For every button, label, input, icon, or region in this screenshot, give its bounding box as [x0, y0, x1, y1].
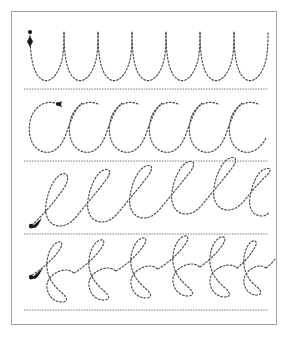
trace-stroke-f-6[interactable]: [237, 241, 266, 295]
trace-stroke-e-3[interactable]: [122, 165, 164, 218]
trace-stroke-e-2[interactable]: [80, 169, 122, 222]
trace-stroke-f-2[interactable]: [74, 240, 116, 300]
left-arrow-icon: [57, 101, 63, 108]
row-overcurve-c: [29, 101, 266, 152]
start-dot-icon: [28, 30, 32, 34]
row-double-loop-f: [29, 236, 275, 302]
trace-stroke-u-4[interactable]: [132, 32, 166, 81]
trace-stroke-u-6[interactable]: [200, 32, 234, 81]
trace-stroke-e-6[interactable]: [248, 168, 270, 216]
row-undercurve-u: [27, 30, 268, 81]
trace-stroke-e-4[interactable]: [164, 161, 206, 214]
down-arrow-icon: [27, 36, 33, 47]
trace-stroke-e-5[interactable]: [206, 157, 248, 210]
start-marker-row-1: [27, 30, 33, 47]
trace-stroke-u-1[interactable]: [30, 32, 64, 81]
trace-stroke-u-3[interactable]: [98, 32, 132, 81]
trace-stroke-e-1[interactable]: [32, 174, 80, 226]
trace-stroke-u-7[interactable]: [234, 32, 268, 81]
row-loop-e: [29, 157, 270, 228]
trace-stroke-f-1[interactable]: [32, 242, 74, 302]
tracing-canvas: [0, 0, 290, 338]
trace-stroke-f-7[interactable]: [266, 259, 275, 268]
trace-stroke-u-5[interactable]: [166, 32, 200, 81]
start-marker-row-4: [29, 268, 43, 280]
trace-stroke-u-2[interactable]: [64, 32, 98, 81]
start-marker-row-3: [29, 218, 42, 229]
trace-stroke-f-5[interactable]: [200, 237, 237, 297]
trace-stroke-f-4[interactable]: [158, 236, 200, 296]
up-right-arrow-icon: [30, 218, 43, 229]
trace-stroke-c-6[interactable]: [229, 102, 266, 152]
worksheet-page: [0, 0, 290, 338]
start-marker-row-2: [56, 101, 62, 108]
trace-stroke-f-3[interactable]: [116, 238, 158, 298]
